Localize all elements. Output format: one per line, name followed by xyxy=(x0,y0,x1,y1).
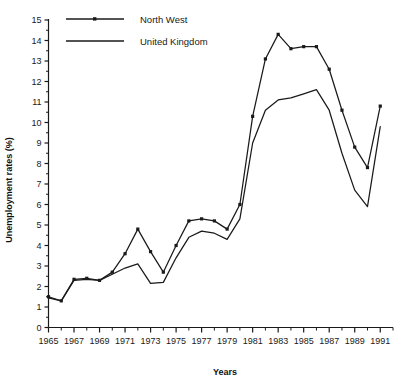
data-point-marker xyxy=(149,250,152,253)
y-tick-label: 2 xyxy=(36,282,41,292)
y-tick-label: 9 xyxy=(36,138,41,148)
x-tick-label: 1977 xyxy=(192,336,212,346)
data-point-marker xyxy=(238,203,241,206)
x-tick-label: 1967 xyxy=(64,336,84,346)
data-point-marker xyxy=(340,109,343,112)
x-tick-label: 1969 xyxy=(90,336,110,346)
x-tick-label: 1981 xyxy=(243,336,263,346)
y-tick-label: 13 xyxy=(31,56,41,66)
y-tick-label: 1 xyxy=(36,302,41,312)
y-tick-label: 15 xyxy=(31,15,41,25)
legend-label-north-west: North West xyxy=(140,14,188,25)
data-point-marker xyxy=(264,57,267,60)
data-point-marker xyxy=(123,252,126,255)
y-tick-label: 3 xyxy=(36,261,41,271)
y-axis-title: Unemployment rates (%) xyxy=(4,137,14,243)
data-point-marker xyxy=(162,271,165,274)
data-point-marker xyxy=(136,228,139,231)
legend-marker-north-west xyxy=(93,17,96,20)
data-point-marker xyxy=(187,219,190,222)
data-point-marker xyxy=(379,105,382,108)
data-point-marker xyxy=(277,33,280,36)
data-point-marker xyxy=(353,146,356,149)
y-tick-label: 14 xyxy=(31,36,41,46)
y-tick-label: 8 xyxy=(36,159,41,169)
unemployment-line-chart: 0123456789101112131415 19651967196919711… xyxy=(0,0,401,383)
data-point-marker xyxy=(213,219,216,222)
x-tick-label: 1979 xyxy=(217,336,237,346)
x-tick-label: 1975 xyxy=(166,336,186,346)
data-point-marker xyxy=(200,217,203,220)
x-tick-label: 1983 xyxy=(268,336,288,346)
y-tick-label: 0 xyxy=(36,323,41,333)
data-point-marker xyxy=(174,244,177,247)
data-point-marker xyxy=(302,45,305,48)
y-tick-label: 12 xyxy=(31,77,41,87)
data-point-marker xyxy=(366,166,369,169)
legend-label-united-kingdom: United Kingdom xyxy=(140,36,208,47)
y-tick-label: 6 xyxy=(36,200,41,210)
y-tick-label: 5 xyxy=(36,220,41,230)
x-tick-label: 1991 xyxy=(370,336,390,346)
x-tick-label: 1965 xyxy=(38,336,58,346)
x-tick-label: 1987 xyxy=(319,336,339,346)
data-point-marker xyxy=(226,228,229,231)
x-tick-label: 1989 xyxy=(345,336,365,346)
data-point-marker xyxy=(251,115,254,118)
chart-background xyxy=(0,0,401,383)
data-point-marker xyxy=(328,68,331,71)
x-tick-label: 1973 xyxy=(141,336,161,346)
data-point-marker xyxy=(289,47,292,50)
x-tick-label: 1971 xyxy=(115,336,135,346)
x-axis-title: Years xyxy=(213,367,237,377)
y-tick-label: 10 xyxy=(31,118,41,128)
y-tick-label: 11 xyxy=(32,97,41,107)
y-tick-label: 4 xyxy=(36,241,41,251)
chart-container: 0123456789101112131415 19651967196919711… xyxy=(0,0,401,383)
y-tick-label: 7 xyxy=(36,179,41,189)
data-point-marker xyxy=(315,45,318,48)
x-tick-label: 1985 xyxy=(294,336,314,346)
